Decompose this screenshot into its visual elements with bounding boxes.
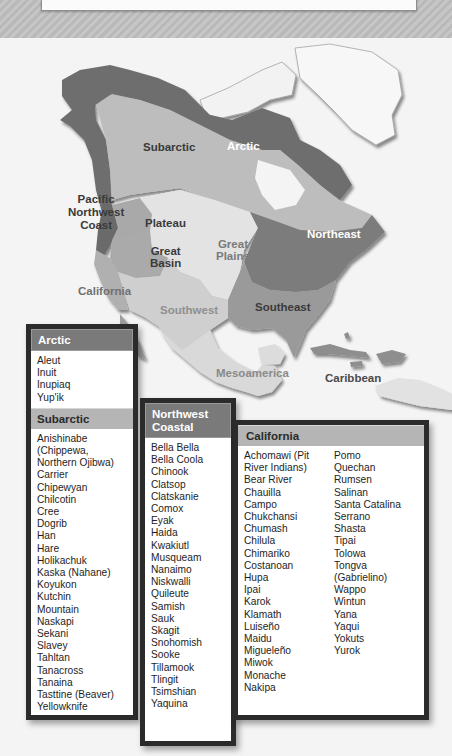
list-item: Inuit (37, 367, 127, 379)
list-item: Campo (244, 499, 328, 511)
label-line: Great (216, 238, 250, 250)
list-item: Rumsen (334, 474, 418, 486)
list-item: Migueleño (244, 645, 328, 657)
list-item: Kwakiutl (151, 540, 225, 552)
list-item: Tasttine (Beaver) (37, 689, 127, 701)
list-item: Yurok (334, 645, 418, 657)
list-item: Costanoan (244, 560, 328, 572)
list-item: Nanaimo (151, 564, 225, 576)
label-mesoamerica: Mesoamerica (216, 367, 289, 379)
header-card (41, 0, 417, 11)
label-line: Basin (150, 257, 181, 269)
legend-arctic-subarctic: Arctic Aleut Inuit Inupiaq Yup'ik Subarc… (26, 324, 138, 720)
label-southeast: Southeast (255, 301, 311, 313)
list-item: Mountain (37, 604, 127, 616)
label-subarctic: Subarctic (143, 141, 195, 153)
list-item: Wappo (334, 584, 418, 596)
label-line: Coast (68, 219, 124, 232)
list-item: Kaska (Nahane) (37, 567, 127, 579)
list-item: Serrano (334, 511, 418, 523)
list-item: Tsimshian (151, 686, 225, 698)
list-item: Holikachuk (37, 555, 127, 567)
list-item: (Chippewa, (37, 445, 127, 457)
list-item: Klamath (244, 609, 328, 621)
list-item: Niskwalli (151, 576, 225, 588)
legend-northwest-coastal: Northwest Coastal Bella BellaBella Coola… (140, 398, 236, 746)
list-item: Hupa (244, 572, 328, 584)
list-item: Anishinabe (37, 433, 127, 445)
list-item: Chilula (244, 535, 328, 547)
list-item: Chipewyan (37, 482, 127, 494)
list-item: Aleut (37, 355, 127, 367)
list-item: Comox (151, 503, 225, 515)
list-item: Chilcotin (37, 494, 127, 506)
list-item: Sekani (37, 628, 127, 640)
list-item: Slavey (37, 640, 127, 652)
list-item: Chinook (151, 466, 225, 478)
legend-northwest-coastal-title: Northwest Coastal (145, 403, 231, 438)
list-item: Bella Coola (151, 454, 225, 466)
list-item: Luiseño (244, 621, 328, 633)
list-item: Cree (37, 506, 127, 518)
list-item: Skagit (151, 625, 225, 637)
list-item: Monache (244, 670, 328, 682)
list-item: Naskapi (37, 616, 127, 628)
list-item: Achomawi (Pit (244, 450, 328, 462)
bahamas-shape (344, 332, 350, 339)
list-item: Tahltan (37, 652, 127, 664)
legend-california: California Achomawi (PitRiver Indians)Be… (233, 420, 429, 720)
title-line: Northwest (152, 408, 224, 421)
list-item: Nakipa (244, 682, 328, 694)
cuba-shape (310, 344, 370, 358)
legend-subarctic-title: Subarctic (31, 408, 133, 429)
list-item: (Gabrielino) (334, 572, 418, 584)
label-line: Plains (216, 250, 250, 262)
label-northeast: Northeast (307, 228, 361, 240)
list-item: Snohomish (151, 637, 225, 649)
list-item: Clatskanie (151, 491, 225, 503)
legend-arctic-title: Arctic (31, 329, 133, 351)
list-item: Karok (244, 596, 328, 608)
california-tribes-list-col2: PomoQuechanRumsenSalinanSanta CatalinaSe… (334, 446, 424, 698)
arctic-islands-shape (200, 62, 296, 118)
label-caribbean: Caribbean (325, 372, 381, 384)
list-item: Santa Catalina (334, 499, 418, 511)
arctic-tribes-list: Aleut Inuit Inupiaq Yup'ik (31, 351, 133, 408)
list-item: Yaqui (334, 621, 418, 633)
list-item: Sauk (151, 613, 225, 625)
list-item: Northern Ojibwa) (37, 457, 127, 469)
list-item: Yokuts (334, 633, 418, 645)
list-item: Chumash (244, 523, 328, 535)
list-item: Yana (334, 609, 418, 621)
list-item: Chimariko (244, 548, 328, 560)
list-item: Tanacross (37, 665, 127, 677)
list-item: Musqueam (151, 552, 225, 564)
northwest-coastal-tribes-list: Bella BellaBella CoolaChinookClatsopClat… (145, 438, 231, 714)
south-america-shape (375, 378, 452, 410)
list-item: Quechan (334, 462, 418, 474)
list-item: Miwok (244, 657, 328, 669)
list-item: Koyukon (37, 579, 127, 591)
list-item: Kutchin (37, 591, 127, 603)
label-southwest: Southwest (160, 304, 218, 316)
list-item: Sooke (151, 649, 225, 661)
label-arctic: Arctic (227, 140, 260, 152)
list-item: Yaquina (151, 698, 225, 710)
list-item: Hare (37, 543, 127, 555)
greenland-shape (295, 44, 402, 145)
label-plateau: Plateau (145, 217, 186, 229)
list-item: Wintun (334, 596, 418, 608)
list-item: Tipai (334, 535, 418, 547)
list-item: Tillamook (151, 662, 225, 674)
yucatan-shape (258, 344, 285, 365)
subarctic-tribes-list: Anishinabe(Chippewa,Northern Ojibwa)Carr… (31, 429, 133, 718)
list-item: Pomo (334, 450, 418, 462)
list-item: Han (37, 530, 127, 542)
legend-california-title: California (238, 425, 424, 446)
list-item: Eyak (151, 515, 225, 527)
label-great-basin: Great Basin (150, 245, 181, 269)
list-item: Tongva (334, 560, 418, 572)
list-item: Bear River (244, 474, 328, 486)
label-california: California (78, 285, 131, 297)
list-item: Yup'ik (37, 392, 127, 404)
